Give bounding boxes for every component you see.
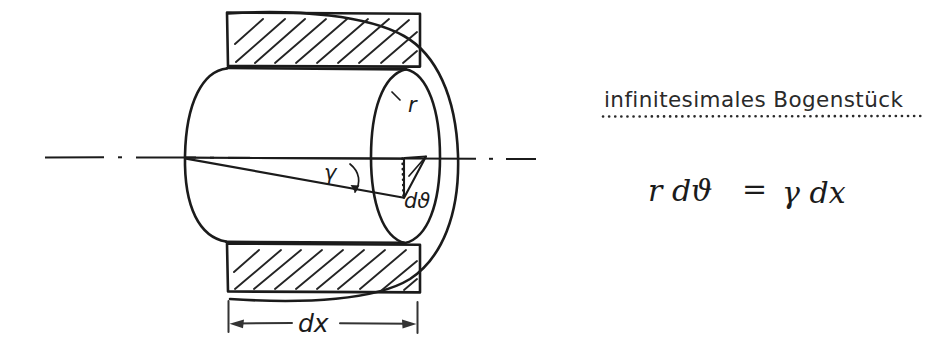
formula-equals: =: [742, 171, 767, 206]
annotation-formula-group: r dϑ = γ dx: [648, 171, 846, 210]
top-block-hatching: [235, 19, 417, 63]
dtheta-label-group: dϑ: [404, 189, 430, 213]
bottom-block-hatching: [234, 250, 417, 290]
dx-label: dx: [298, 309, 329, 338]
bottom-hatched-block: [227, 244, 420, 293]
radius-label: r: [408, 93, 418, 117]
annotation-title-group: infinitesimales Bogenstück: [603, 87, 926, 117]
radius-label-group: r: [392, 92, 418, 117]
shear-angle-label: γ: [324, 161, 338, 185]
cylinder-right-face-ellipse: [371, 69, 440, 243]
top-hatched-block: [227, 13, 420, 67]
figure-root: r dϑ γ dx infinitesimales Bogenstück r d…: [0, 0, 952, 360]
annotation-title: infinitesimales Bogenstück: [604, 87, 903, 112]
formula-lhs: r dϑ: [648, 173, 713, 208]
dtheta-label: dϑ: [404, 189, 430, 213]
formula-rhs: γ dx: [782, 175, 846, 210]
title-dotted-underline: [603, 116, 926, 117]
dx-dimension: dx: [229, 301, 418, 338]
cylinder-left-end-arc: [185, 69, 227, 242]
handdrawn-diagram-svg: r dϑ γ dx infinitesimales Bogenstück r d…: [0, 0, 952, 360]
